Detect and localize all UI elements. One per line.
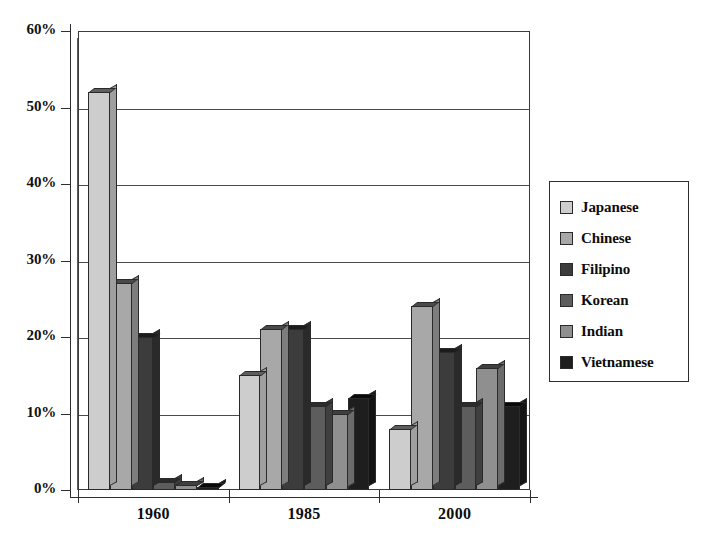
legend-item[interactable]: Japanese [560, 192, 688, 223]
x-axis-tick [78, 490, 79, 503]
bar-face [197, 487, 219, 490]
legend-item[interactable]: Chinese [560, 223, 688, 254]
bar-side-3d [433, 298, 440, 486]
legend-item[interactable]: Vietnamese [560, 347, 688, 378]
x-axis-line [70, 497, 538, 498]
x-axis-category-label: 1960 [113, 505, 193, 523]
bar-chart: 0%10%20%30%40%50%60% 196019852000 Japane… [0, 0, 704, 543]
legend-swatch-icon [560, 263, 573, 276]
legend-item[interactable]: Korean [560, 285, 688, 316]
bar-side-3d [476, 398, 483, 486]
bar [197, 487, 219, 490]
bar [88, 92, 110, 490]
bar-side-3d [110, 84, 117, 486]
bar [389, 429, 411, 490]
bar-side-3d [132, 275, 139, 486]
bar-side-3d [455, 344, 462, 486]
legend-item-label: Japanese [581, 199, 639, 216]
bar-side-3d [498, 360, 505, 486]
bar-side-3d [369, 390, 376, 486]
legend: JapaneseChineseFilipinoKoreanIndianVietn… [549, 181, 689, 382]
bar-face [389, 429, 411, 490]
legend-item-label: Korean [581, 292, 628, 309]
bar-side-3d [304, 321, 311, 486]
legend-item[interactable]: Indian [560, 316, 688, 347]
legend-swatch-icon [560, 294, 573, 307]
bar-side-3d [520, 398, 527, 486]
legend-swatch-icon [560, 356, 573, 369]
bar [175, 485, 197, 490]
bar-side-3d [260, 367, 267, 486]
legend-item-label: Chinese [581, 230, 631, 247]
legend-swatch-icon [560, 232, 573, 245]
x-axis-category-label: 1985 [264, 505, 344, 523]
legend-item[interactable]: Filipino [560, 254, 688, 285]
bar-side-3d [348, 405, 355, 486]
legend-item-label: Indian [581, 323, 623, 340]
x-axis-tick [229, 490, 230, 503]
x-axis-category-label: 2000 [415, 505, 495, 523]
legend-item-label: Filipino [581, 261, 630, 278]
legend-swatch-icon [560, 325, 573, 338]
legend-item-label: Vietnamese [581, 354, 654, 371]
bar-face [88, 92, 110, 490]
bar-side-3d [411, 421, 418, 486]
bar-side-3d [326, 398, 333, 486]
bar-face [175, 485, 197, 490]
bar [239, 375, 261, 490]
x-axis-tick [379, 490, 380, 503]
x-axis-tick [530, 490, 531, 503]
legend-swatch-icon [560, 201, 573, 214]
bar-side-3d [153, 329, 160, 486]
bar-face [239, 375, 261, 490]
bar-side-3d [282, 321, 289, 486]
